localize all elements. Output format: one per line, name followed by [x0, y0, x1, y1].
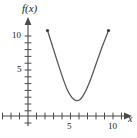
x-tick-label-5: 5 — [67, 122, 72, 131]
parabola-curve — [48, 31, 109, 101]
curve-endpoint-left — [46, 29, 49, 32]
y-tick-label-5: 5 — [17, 65, 22, 74]
curve-endpoint-right — [107, 29, 110, 32]
y-axis-group — [25, 17, 32, 126]
y-axis-label: f(x) — [22, 3, 37, 14]
x-tick-label-10: 10 — [108, 122, 117, 131]
x-axis-label: x — [128, 114, 132, 124]
x-axis-group — [2, 113, 132, 120]
y-axis-arrow-head — [25, 17, 32, 25]
y-tick-label-10: 10 — [12, 31, 21, 40]
parabola-figure: f(x) x 10 5 5 10 — [0, 0, 137, 138]
